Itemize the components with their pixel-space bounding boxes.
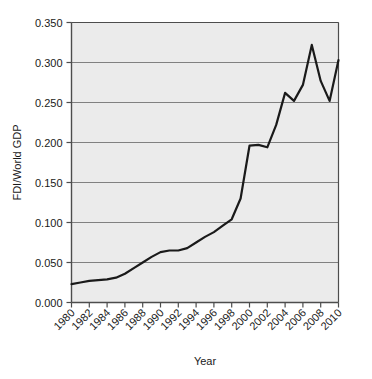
y-axis-tick-label: 0.200 xyxy=(35,137,63,149)
x-axis-title: Year xyxy=(194,355,217,367)
y-axis-tick-label: 0.300 xyxy=(35,57,63,69)
y-axis-title: FDI/World GDP xyxy=(11,124,23,200)
y-axis-tick-label: 0.050 xyxy=(35,257,63,269)
y-axis-tick-label: 0.000 xyxy=(35,297,63,309)
chart-figure: 0.0000.0500.1000.1500.2000.2500.3000.350… xyxy=(0,0,372,379)
y-axis-tick-label: 0.100 xyxy=(35,217,63,229)
y-axis-tick-label: 0.350 xyxy=(35,17,63,29)
y-axis-tick-label: 0.250 xyxy=(35,97,63,109)
fdi-world-gdp-line-chart: 0.0000.0500.1000.1500.2000.2500.3000.350… xyxy=(0,0,372,379)
plot-area-background xyxy=(72,23,339,303)
y-axis-tick-label: 0.150 xyxy=(35,177,63,189)
x-axis-tick-label: 2010 xyxy=(318,306,344,332)
